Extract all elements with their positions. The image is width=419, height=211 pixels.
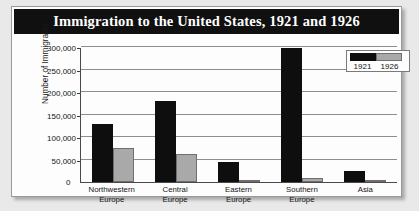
y-axis-tick-label: 100,000 <box>47 134 76 143</box>
legend-swatches <box>350 53 402 61</box>
bar-1926-central-europe <box>176 154 197 182</box>
bar-1921-central-europe <box>155 101 176 182</box>
bar-1921-northwestern-europe <box>92 124 113 182</box>
bar-1926-southern-europe <box>302 178 323 182</box>
x-axis-category-label: Asia <box>334 185 397 209</box>
bar-1921-asia <box>344 171 365 182</box>
bar-1926-eastern-europe <box>239 180 260 182</box>
chart-legend: 19211926 <box>346 50 410 72</box>
bar-1926-asia <box>365 180 386 182</box>
x-label-line: Eastern <box>207 185 270 195</box>
x-axis-category-label: CentralEurope <box>143 185 206 209</box>
bar-1921-southern-europe <box>281 48 302 182</box>
y-axis-zero-label: 0 <box>66 178 70 187</box>
legend-label-1926: 1926 <box>376 62 403 71</box>
bar-1921-eastern-europe <box>218 162 239 182</box>
legend-labels: 19211926 <box>349 62 403 71</box>
page-title: Immigration to the United States, 1921 a… <box>53 13 360 30</box>
chart-card: Immigration to the United States, 1921 a… <box>11 6 402 197</box>
y-axis-tick-label: 300,000 <box>47 44 76 53</box>
x-label-line: Northwestern <box>80 185 143 195</box>
x-label-line: Europe <box>270 195 333 205</box>
x-axis-category-label: NorthwesternEurope <box>80 185 143 209</box>
y-axis-tick-label: 250,000 <box>47 66 76 75</box>
gridline <box>81 46 397 47</box>
bar-group <box>207 48 270 182</box>
x-label-line: Europe <box>80 195 143 205</box>
x-label-line: Southern <box>270 185 333 195</box>
bar-group <box>144 48 207 182</box>
y-axis-tick-label: 150,000 <box>47 111 76 120</box>
bar-group <box>271 48 334 182</box>
legend-swatch-1921 <box>350 53 376 61</box>
chart-title-banner: Immigration to the United States, 1921 a… <box>14 9 399 34</box>
x-axis-category-labels: NorthwesternEuropeCentralEuropeEasternEu… <box>80 185 397 209</box>
bar-1926-northwestern-europe <box>113 148 134 182</box>
bar-group <box>81 48 144 182</box>
legend-swatch-1926 <box>376 53 402 61</box>
chart-figure: Immigration to the United States, 1921 a… <box>0 0 419 211</box>
x-label-line: Central <box>143 185 206 195</box>
x-axis-category-label: SouthernEurope <box>270 185 333 209</box>
x-axis-category-label: EasternEurope <box>207 185 270 209</box>
y-axis-tick-label: 50,000 <box>52 156 76 165</box>
x-label-line: Europe <box>143 195 206 205</box>
y-axis-tick-labels: 50,000100,000150,000200,000250,000300,00… <box>32 42 80 187</box>
legend-label-1921: 1921 <box>349 62 376 71</box>
x-label-line: Europe <box>207 195 270 205</box>
y-axis-tick-label: 200,000 <box>47 89 76 98</box>
